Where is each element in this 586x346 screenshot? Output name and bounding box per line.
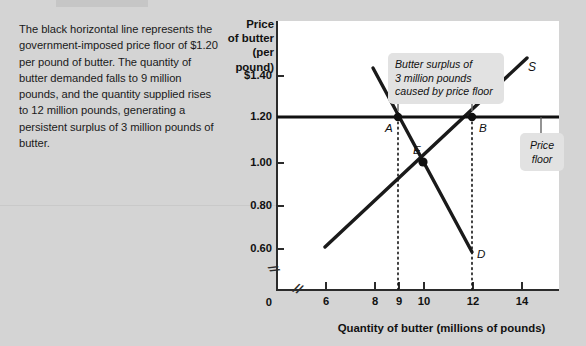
supply-curve-label: S [528,60,536,74]
chart-curves-layer [0,0,586,346]
surplus-annotation-line-2: 3 million pounds [395,72,497,86]
point-label-b: B [479,121,487,134]
price-floor-annotation-line-2: floor [527,152,557,166]
point-marker-e [418,157,427,166]
point-label-d: D [477,247,485,260]
figure-panel: The black horizontal line represents the… [0,0,586,346]
point-label-a: A [385,121,393,134]
price-floor-annotation: Price floor [520,133,564,171]
point-label-e: E [413,143,421,156]
surplus-annotation: Butter surplus of 3 million pounds cause… [388,53,504,104]
price-floor-annotation-line-1: Price [527,138,557,152]
surplus-annotation-line-1: Butter surplus of [395,58,497,72]
point-marker-a [394,113,402,121]
surplus-annotation-line-3: caused by price floor [395,85,497,99]
point-marker-b [468,113,476,121]
